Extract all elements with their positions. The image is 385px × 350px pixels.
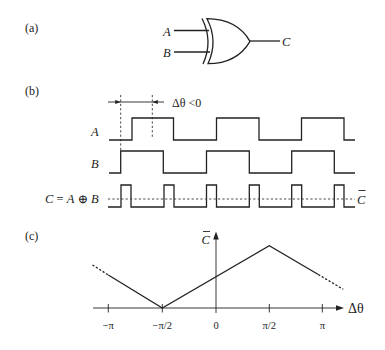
y-axis-arrow-icon [213,232,219,240]
expr-xor-operator: ⊕ [74,192,91,206]
expr-b: B [91,192,99,206]
phase-annotation: Δθ <0 [172,96,201,110]
expr-a: A [66,192,75,206]
y-axis-label: C [202,233,211,247]
arrow-right-icon [115,100,121,104]
panel-c-label: (c) [25,229,38,243]
curve-right-extension [318,275,343,290]
panel-b-label: (b) [25,84,39,98]
tick-label-minus-half-pi: −π/2 [153,320,172,331]
tick-label-half-pi: π/2 [263,320,276,331]
arrow-left-icon [152,100,158,104]
panel-b: (b) Δθ <0 A B C = A ⊕ B C [25,84,366,207]
curve-left-extension [93,265,109,275]
tick-label-pi: π [320,320,326,331]
waveform-b [109,151,355,173]
waveform-c [108,185,355,207]
xor-phase-detector-figure: (a) A B C (b) Δθ <0 A B C = A ⊕ B C ( [0,0,385,350]
gate-output-c-label: C [282,35,291,49]
panel-c: (c) Δθ C −π −π/2 0 π/2 π [25,229,364,331]
waveform-b-label: B [91,157,99,171]
tick-label-zero: 0 [213,320,218,331]
waveform-a-label: A [90,125,99,139]
expr-equals: = [53,192,66,206]
x-axis-arrow-icon [336,305,344,311]
xor-gate-body [207,19,250,64]
waveform-c-average-label: C [357,193,366,207]
waveform-a [109,118,355,140]
phase-detector-characteristic [108,246,318,308]
gate-input-b-label: B [163,46,171,60]
xor-gate-extra-curve [202,19,208,65]
waveform-c-expression: C = A ⊕ B [45,192,99,206]
gate-input-a-label: A [162,25,171,39]
panel-a-label: (a) [25,21,38,35]
tick-label-minus-pi: −π [103,320,115,331]
panel-a: (a) A B C [25,19,291,65]
x-axis-label: Δθ [348,301,364,316]
x-axis-tick-labels: −π −π/2 0 π/2 π [103,320,326,331]
